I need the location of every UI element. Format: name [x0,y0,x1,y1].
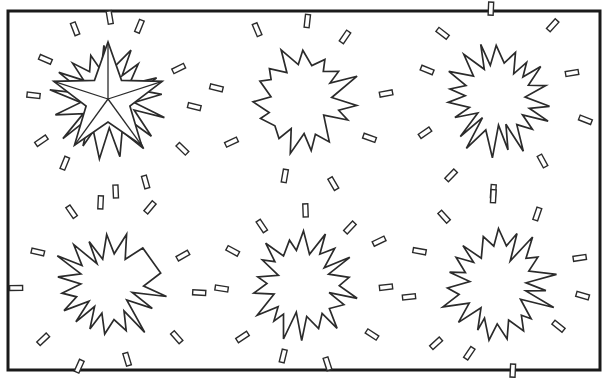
debris-chip [193,290,206,296]
debris-chip [215,285,229,292]
debris-chip [573,254,587,261]
debris-chip [488,2,494,15]
debris-chip [510,364,516,377]
debris-chip [98,196,104,209]
debris-chip [27,92,40,98]
debris-chip [379,284,392,290]
debris-chip [304,14,310,27]
debris-chip [402,294,415,300]
page-root: Starburst / explosion shape worksheet [0,0,610,381]
debris-chip [113,185,119,198]
starburst-worksheet-canvas [0,0,610,381]
debris-chip [490,190,496,203]
debris-chip [10,285,23,290]
debris-chip [303,204,308,217]
